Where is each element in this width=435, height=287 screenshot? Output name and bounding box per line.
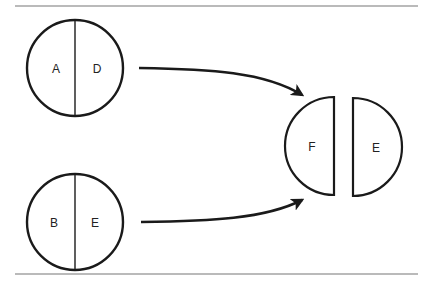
label-a: A xyxy=(52,62,60,76)
label-e-result: E xyxy=(372,141,380,155)
label-e-bottom: E xyxy=(91,216,99,230)
half-disc-f: F xyxy=(285,97,334,195)
label-d: D xyxy=(93,62,102,76)
label-b: B xyxy=(50,216,58,230)
diagram-canvas: A D B E F E xyxy=(0,0,435,287)
label-f: F xyxy=(308,140,315,154)
circle-be: B E xyxy=(27,174,123,270)
half-disc-e: E xyxy=(353,98,402,196)
circle-ad: A D xyxy=(27,20,123,116)
arrow-top xyxy=(139,68,302,95)
arrow-bottom xyxy=(141,200,302,222)
